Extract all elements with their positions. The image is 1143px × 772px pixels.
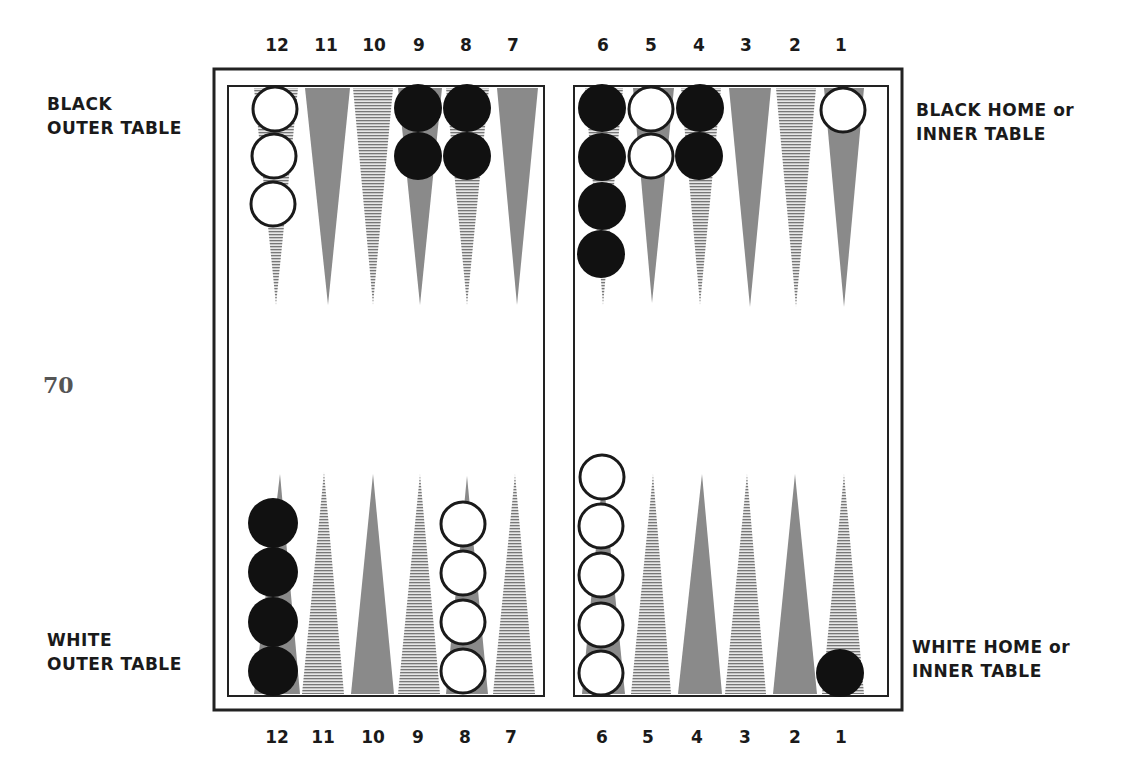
point-10-top[interactable] <box>353 88 393 305</box>
black-checker[interactable] <box>577 230 625 278</box>
point-11-bottom[interactable] <box>302 472 344 694</box>
white-checker[interactable] <box>579 603 623 647</box>
white-checker[interactable] <box>821 88 865 132</box>
black-checker[interactable] <box>394 132 442 180</box>
point-2-top[interactable] <box>776 88 816 307</box>
black-checker[interactable] <box>443 132 491 180</box>
black-checker[interactable] <box>675 132 723 180</box>
point-2-bottom[interactable] <box>773 474 817 694</box>
white-checker[interactable] <box>579 553 623 597</box>
white-checker[interactable] <box>441 551 485 595</box>
white-checker[interactable] <box>252 134 296 178</box>
white-checker[interactable] <box>580 455 624 499</box>
white-checker[interactable] <box>441 649 485 693</box>
white-checker[interactable] <box>251 182 295 226</box>
point-10-bottom[interactable] <box>351 474 394 694</box>
point-5-bottom[interactable] <box>631 474 671 694</box>
white-checker[interactable] <box>441 502 485 546</box>
bottom-points <box>254 472 864 694</box>
black-checker[interactable] <box>816 649 864 697</box>
point-11-top[interactable] <box>305 88 350 305</box>
top-points <box>254 88 864 307</box>
white-checker[interactable] <box>579 504 623 548</box>
black-checker[interactable] <box>443 84 491 132</box>
black-checker[interactable] <box>394 84 442 132</box>
black-checker[interactable] <box>578 182 626 230</box>
black-checker[interactable] <box>248 498 298 548</box>
white-checker[interactable] <box>629 134 673 178</box>
black-checker[interactable] <box>578 133 626 181</box>
point-3-bottom[interactable] <box>725 474 766 694</box>
black-checker[interactable] <box>248 547 298 597</box>
black-checker[interactable] <box>676 84 724 132</box>
point-9-bottom[interactable] <box>398 474 440 694</box>
backgammon-board <box>0 0 1143 772</box>
point-7-bottom[interactable] <box>493 474 535 694</box>
black-checker[interactable] <box>248 646 298 696</box>
white-checker[interactable] <box>441 600 485 644</box>
white-checker[interactable] <box>579 651 623 695</box>
black-checker[interactable] <box>248 597 298 647</box>
white-checker[interactable] <box>629 87 673 131</box>
point-3-top[interactable] <box>729 88 771 307</box>
white-checker[interactable] <box>253 87 297 131</box>
black-checker[interactable] <box>578 84 626 132</box>
point-4-bottom[interactable] <box>678 474 722 694</box>
point-7-top[interactable] <box>497 88 538 305</box>
